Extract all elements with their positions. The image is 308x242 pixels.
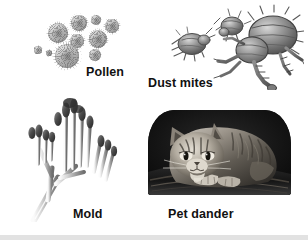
pet-dander-caption: Pet dander — [168, 208, 234, 221]
pollen-grain — [34, 46, 42, 54]
mold-caption: Mold — [73, 208, 103, 221]
bottom-divider — [0, 235, 308, 240]
pollen-grain — [55, 44, 79, 68]
dust-mites-caption: Dust mites — [148, 77, 213, 90]
pollen-grain — [48, 23, 68, 43]
pollen-grain — [46, 50, 52, 56]
mold-illustration — [18, 92, 128, 222]
pollen-grain — [89, 30, 107, 48]
pollen-illustration — [22, 8, 134, 70]
pollen-grain — [89, 49, 101, 61]
dust-mite-small-left — [172, 27, 215, 61]
dust-mite-small-top — [214, 9, 251, 41]
pet-dander-photograph — [148, 110, 291, 195]
allergen-figure: Pollen — [0, 0, 308, 242]
pollen-grain — [71, 15, 87, 31]
pollen-grain — [105, 19, 119, 33]
pollen-caption: Pollen — [86, 66, 124, 79]
mold-conidiophores — [28, 98, 117, 180]
pollen-grain — [91, 15, 101, 25]
